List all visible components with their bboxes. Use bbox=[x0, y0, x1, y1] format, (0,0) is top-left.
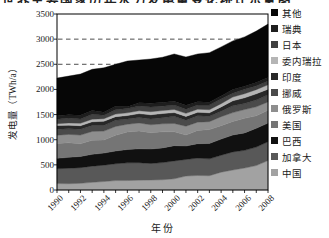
legend: 其他瑞典日本委内瑞拉印度挪威俄罗斯美国巴西加拿大中国 bbox=[271, 7, 322, 183]
legend-item-russia: 俄罗斯 bbox=[271, 103, 322, 114]
legend-label: 其他 bbox=[282, 6, 302, 20]
legend-item-canada: 加拿大 bbox=[271, 151, 322, 162]
legend-swatch-icon bbox=[271, 73, 278, 80]
y-tick-label: 3000 bbox=[24, 34, 54, 44]
legend-item-india: 印度 bbox=[271, 71, 322, 82]
legend-item-other: 其他 bbox=[271, 7, 322, 18]
legend-label: 瑞典 bbox=[282, 22, 302, 36]
y-tick-label: 2000 bbox=[24, 84, 54, 94]
legend-swatch-icon bbox=[271, 121, 278, 128]
legend-label: 挪威 bbox=[282, 86, 302, 100]
legend-swatch-icon bbox=[271, 57, 278, 64]
legend-swatch-icon bbox=[271, 41, 278, 48]
y-axis-title: 发电量（TWh/a） bbox=[5, 47, 18, 157]
legend-label: 加拿大 bbox=[282, 150, 312, 164]
legend-swatch-icon bbox=[271, 9, 278, 16]
legend-label: 委内瑞拉 bbox=[282, 54, 322, 68]
y-tick-label: 1000 bbox=[24, 135, 54, 145]
legend-item-japan: 日本 bbox=[271, 39, 322, 50]
legend-swatch-icon bbox=[271, 89, 278, 96]
legend-item-venezuela: 委内瑞拉 bbox=[271, 55, 322, 66]
legend-swatch-icon bbox=[271, 25, 278, 32]
legend-item-norway: 挪威 bbox=[271, 87, 322, 98]
y-tick-label: 0 bbox=[24, 185, 54, 195]
figure: 世界主要国家历年水力发电量变化统计示意图 发电量（TWh/a） 05001000… bbox=[0, 0, 329, 238]
y-tick-label: 500 bbox=[24, 160, 54, 170]
legend-label: 俄罗斯 bbox=[282, 102, 312, 116]
legend-item-brazil: 巴西 bbox=[271, 135, 322, 146]
legend-label: 日本 bbox=[282, 38, 302, 52]
legend-swatch-icon bbox=[271, 153, 278, 160]
legend-label: 印度 bbox=[282, 70, 302, 84]
y-tick-label: 3500 bbox=[24, 9, 54, 19]
y-tick-label: 1500 bbox=[24, 110, 54, 120]
legend-item-sweden: 瑞典 bbox=[271, 23, 322, 34]
legend-swatch-icon bbox=[271, 169, 278, 176]
x-axis-title: 年份 bbox=[132, 220, 194, 235]
legend-label: 中国 bbox=[282, 166, 302, 180]
legend-swatch-icon bbox=[271, 105, 278, 112]
legend-item-usa: 美国 bbox=[271, 119, 322, 130]
legend-swatch-icon bbox=[271, 137, 278, 144]
legend-label: 巴西 bbox=[282, 134, 302, 148]
legend-label: 美国 bbox=[282, 118, 302, 132]
legend-item-china: 中国 bbox=[271, 167, 322, 178]
y-tick-label: 2500 bbox=[24, 59, 54, 69]
